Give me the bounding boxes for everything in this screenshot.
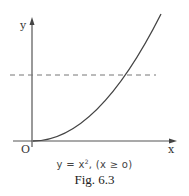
figure-caption: Fig. 6.3: [0, 172, 189, 188]
x-axis-label: x: [168, 144, 174, 155]
parabola-curve: [33, 14, 161, 141]
equation-lhs: y = x: [57, 159, 85, 170]
equation-condition: , (x ≥ o): [89, 159, 133, 170]
origin-label: O: [21, 144, 30, 155]
equation-label: y = x2, (x ≥ o): [0, 158, 189, 170]
y-axis-arrow-icon: [30, 17, 35, 25]
y-axis-label: y: [20, 20, 26, 31]
